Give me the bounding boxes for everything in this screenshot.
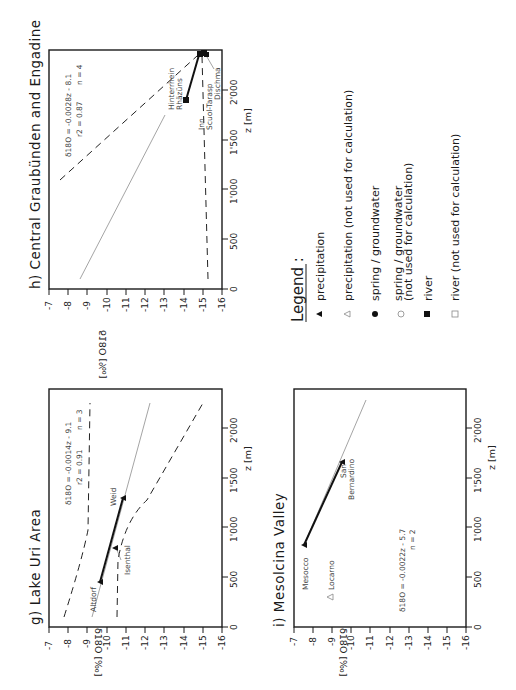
panel-h: h) Central Graubünden and Engadine -7 -8…	[27, 19, 253, 378]
svg-text:Mesocco: Mesocco	[301, 557, 310, 590]
svg-text:Bernardino: Bernardino	[347, 458, 356, 500]
legend-filled-circle-icon	[372, 311, 378, 317]
panel-i-xlabel: z [m]	[486, 445, 497, 470]
svg-text:-14: -14	[179, 635, 189, 650]
svg-text:-9: -9	[82, 639, 92, 648]
panel-h-regression-line	[80, 115, 165, 279]
panel-h-delta-ticks: -7 -8 -9 -10 -11 -12 -13 -14 -15 -16	[44, 289, 227, 312]
svg-text:1'000: 1'000	[229, 516, 239, 542]
svg-text:0: 0	[229, 624, 239, 630]
svg-text:-11: -11	[121, 297, 131, 312]
svg-text:1'500: 1'500	[229, 467, 239, 493]
svg-text:500: 500	[473, 571, 483, 588]
svg-text:-8: -8	[63, 639, 73, 648]
svg-text:precipitation (not used for ca: precipitation (not used for calculation)	[342, 90, 355, 301]
svg-text:-15: -15	[442, 635, 452, 650]
svg-text:Rhäzüns: Rhäzüns	[175, 78, 184, 110]
panel-i-equation: δ18O = -0.0022z - 5.7	[398, 528, 407, 612]
svg-text:Altdorf: Altdorf	[89, 586, 98, 612]
svg-text:(not used for calculation): (not used for calculation)	[402, 163, 415, 301]
svg-text:-12: -12	[385, 635, 395, 650]
panel-g-equation: δ18O = -0.0014z - 9.1	[64, 421, 73, 505]
svg-text:1'500: 1'500	[229, 129, 239, 155]
svg-text:2'000: 2'000	[473, 417, 483, 443]
svg-text:-9: -9	[327, 637, 337, 646]
panel-g-delta-ticks: -7 -8 -9 -10 -11 -12 -13 -14 -15 -16	[44, 627, 227, 650]
panel-h-equation: δ18O = -0.0028z - 8.1	[64, 73, 73, 157]
panel-g-connector	[100, 498, 123, 582]
svg-text:Weid: Weid	[109, 487, 118, 506]
legend-open-circle-icon	[398, 311, 404, 317]
panel-g-ylabel: δ18O [‰]	[93, 628, 104, 677]
svg-text:2'000: 2'000	[229, 417, 239, 443]
svg-text:-12: -12	[140, 297, 150, 312]
panel-h-connector	[186, 55, 199, 100]
svg-text:-10: -10	[102, 297, 112, 312]
panel-i-n: n = 2	[408, 529, 417, 550]
panel-g-z-ticks: 0 500 1'000 1'500 2'000 z [m]	[222, 417, 253, 630]
svg-text:500: 500	[229, 571, 239, 588]
river-marker-scuol	[204, 52, 209, 57]
panel-i-ylabel: δ18O [‰]	[338, 628, 349, 677]
svg-text:-14: -14	[179, 297, 189, 312]
svg-text:500: 500	[229, 233, 239, 250]
svg-text:Locarno: Locarno	[327, 560, 336, 590]
legend-open-triangle-icon	[344, 311, 350, 317]
svg-text:-13: -13	[159, 635, 169, 650]
panel-g-title: g) Lake Uri Area	[27, 509, 43, 625]
svg-text:-9: -9	[82, 301, 92, 310]
svg-text:-13: -13	[404, 635, 414, 650]
svg-text:river: river	[422, 275, 435, 301]
svg-text:-15: -15	[198, 297, 208, 312]
svg-text:-12: -12	[140, 635, 150, 650]
panel-g-n: n = 3	[75, 409, 84, 430]
legend-filled-square-icon	[424, 311, 430, 317]
precip-marker-locarno-not-used	[327, 594, 333, 600]
panel-h-r2: r2 = 0.87	[75, 101, 84, 137]
svg-text:-13: -13	[159, 297, 169, 312]
svg-text:1'000: 1'000	[473, 516, 483, 542]
svg-text:0: 0	[229, 286, 239, 292]
svg-text:1'000: 1'000	[229, 178, 239, 204]
svg-text:-11: -11	[365, 635, 375, 650]
legend: Legend : precipitation precipitation (no…	[289, 90, 462, 322]
panel-i-connector	[304, 462, 342, 545]
svg-text:-7: -7	[44, 301, 54, 310]
panel-h-z-ticks: 0 500 1'000 1'500 2'000 z [m]	[222, 79, 253, 292]
svg-text:-11: -11	[121, 635, 131, 650]
panel-h-xlabel: z [m]	[242, 108, 253, 133]
svg-text:-16: -16	[461, 635, 471, 650]
legend-title: Legend :	[289, 257, 307, 322]
panel-i-delta-ticks: -7 -8 -9 -10 -11 -12 -13 -14 -15 -16	[289, 627, 471, 650]
svg-text:river (not used for calculatio: river (not used for calculation)	[449, 134, 462, 301]
svg-text:-8: -8	[308, 637, 318, 646]
panel-h-n: n = 4	[75, 64, 84, 85]
panel-i-title: i) Mesolcina Valley	[271, 493, 287, 627]
panel-g-envelope-lower	[117, 403, 203, 617]
panel-g-r2: r2 = 0.91	[75, 449, 84, 485]
svg-text:-8: -8	[63, 301, 73, 310]
panel-h-title: h) Central Graubünden and Engadine	[27, 19, 43, 289]
figure-svg: h) Central Graubünden and Engadine -7 -8…	[0, 0, 516, 690]
svg-text:Dischma: Dischma	[213, 67, 222, 100]
panel-g: g) Lake Uri Area -7 -8 -9 -10 -11 -12 -1…	[27, 389, 253, 677]
svg-text:2'000: 2'000	[229, 79, 239, 105]
panel-g-xlabel: z [m]	[242, 446, 253, 471]
legend-open-square-icon	[452, 311, 458, 317]
legend-filled-triangle-icon	[316, 311, 322, 317]
svg-text:1'500: 1'500	[473, 467, 483, 493]
panel-i: i) Mesolcina Valley -7 -8 -9 -10 -11 -12…	[271, 389, 497, 677]
svg-text:-14: -14	[423, 635, 433, 650]
figure-page: h) Central Graubünden and Engadine -7 -8…	[0, 0, 516, 690]
svg-text:Isenthal: Isenthal	[123, 545, 132, 575]
svg-text:-7: -7	[289, 637, 299, 646]
svg-text:-7: -7	[44, 641, 54, 650]
svg-text:-15: -15	[198, 635, 208, 650]
svg-text:-16: -16	[217, 635, 227, 650]
svg-text:0: 0	[473, 624, 483, 630]
panel-i-z-ticks: 0 500 1'000 1'500 2'000 z [m]	[466, 417, 497, 630]
svg-text:precipitation: precipitation	[314, 232, 327, 301]
panel-h-ylabel: δ18O [‰]	[97, 330, 108, 379]
svg-text:-16: -16	[217, 297, 227, 312]
svg-text:spring / groundwater: spring / groundwater	[369, 185, 382, 301]
